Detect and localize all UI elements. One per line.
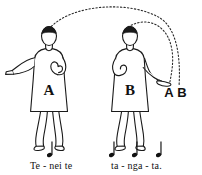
- figure-b-right-leg-inner: [140, 112, 144, 147]
- quarter-note-icon: [108, 142, 114, 158]
- figure-b-torso: [112, 49, 149, 112]
- figure-a-right-foot: [55, 146, 64, 151]
- figure-a-body-label: A: [44, 82, 55, 98]
- scene-drawing: A B: [0, 0, 202, 175]
- figure-b-left-foot: [115, 146, 125, 151]
- quarter-note-icon: [46, 142, 52, 158]
- quarter-note-icon: [155, 142, 161, 158]
- lyric-phrase-2: ta - nga - ta.: [111, 160, 162, 171]
- figure-a-left-leg: [36, 112, 41, 147]
- lyric-phrase-1: Te - nei te: [30, 160, 72, 171]
- figure-b-right-leg: [134, 112, 137, 147]
- figure-b: [112, 27, 171, 112]
- illustration-canvas: A B: [0, 0, 202, 175]
- figure-a: [6, 27, 68, 151]
- figure-a-left-hand-icon: [6, 71, 14, 75]
- notation-phrase-1: [46, 142, 52, 158]
- figure-a-torso: [31, 49, 68, 112]
- figure-a-right-leg: [53, 112, 56, 147]
- quarter-note-icon: [131, 142, 137, 158]
- endpoint-label-b: B: [177, 85, 186, 100]
- figure-b-left-leg: [117, 112, 122, 147]
- figure-b-right-arm: [145, 58, 162, 81]
- figure-a-left-arm: [12, 58, 35, 74]
- figure-b-body-label: B: [125, 82, 135, 98]
- figure-b-left-leg-inner: [124, 112, 128, 147]
- endpoint-label-a: A: [164, 85, 174, 100]
- figure-a-left-foot: [34, 146, 44, 151]
- figure-a-left-leg-inner: [43, 112, 47, 147]
- figure-a-right-leg-inner: [59, 112, 63, 147]
- figure-b-lower-body: [115, 112, 145, 151]
